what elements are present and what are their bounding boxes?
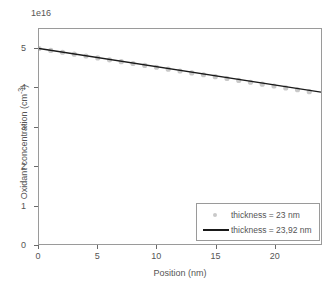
- legend-item-scatter: thickness = 23 nm: [201, 207, 315, 222]
- x-axis-label: Position (nm): [38, 268, 322, 278]
- legend-line-icon: [201, 224, 231, 236]
- y-axis-offset-label: 1e16: [31, 8, 51, 18]
- x-tick-label: 5: [95, 251, 100, 261]
- x-tick-mark: [216, 245, 217, 249]
- x-tick-mark: [38, 245, 39, 249]
- chart-legend: thickness = 23 nm thickness = 23,92 nm: [196, 203, 320, 241]
- y-tick-mark: [34, 166, 38, 167]
- x-tick-label: 15: [210, 251, 220, 261]
- x-tick-mark: [97, 245, 98, 249]
- chart-figure: 1e16 012345 05101520 Position (nm) Oxida…: [0, 0, 330, 289]
- y-axis-label-text: Oxidant concentration (cm: [19, 94, 29, 199]
- y-axis-label-suffix: ): [19, 85, 29, 88]
- line-series: [39, 49, 321, 93]
- y-tick-mark: [34, 48, 38, 49]
- y-tick-mark: [34, 127, 38, 128]
- x-tick-label: 20: [270, 251, 280, 261]
- x-tick-mark: [156, 245, 157, 249]
- y-axis-label: Oxidant concentration (cm-3): [17, 34, 29, 251]
- y-tick-mark: [34, 206, 38, 207]
- y-axis-label-exponent: -3: [17, 88, 24, 94]
- y-tick-mark: [34, 87, 38, 88]
- legend-item-line: thickness = 23,92 nm: [201, 222, 315, 237]
- x-tick-label: 0: [35, 251, 40, 261]
- legend-label-scatter: thickness = 23 nm: [231, 210, 300, 220]
- x-tick-label: 10: [151, 251, 161, 261]
- legend-marker-icon: [201, 209, 231, 221]
- x-tick-mark: [275, 245, 276, 249]
- legend-label-line: thickness = 23,92 nm: [231, 225, 312, 235]
